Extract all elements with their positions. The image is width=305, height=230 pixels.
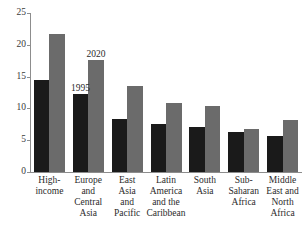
bar-2020-3 [127, 86, 143, 172]
bar-2020-2 [88, 60, 104, 172]
bar-2020-1 [49, 34, 65, 172]
x-axis-label-2: EuropeandCentralAsia [67, 175, 110, 219]
x-axis-label-7: MiddleEast andNorthAfrica [261, 175, 304, 219]
y-axis-tick-25: 25 [0, 8, 26, 18]
y-axis-tick-10: 10 [0, 103, 26, 113]
x-axis-label-4: LatinAmericaand theCaribbean [145, 175, 188, 219]
clipped-caption-text: · · · [0, 0, 305, 4]
series-annotation-1995: 1995 [69, 83, 93, 93]
x-axis-label-5: SouthAsia [183, 175, 226, 197]
bar-2020-7 [283, 120, 299, 172]
bar-2020-4 [166, 103, 182, 172]
bar-1995-6 [228, 132, 244, 172]
plot-area: 19952020 [30, 13, 302, 172]
bar-1995-1 [34, 80, 50, 172]
bar-1995-2 [73, 94, 89, 172]
y-axis-tick-15: 15 [0, 72, 26, 82]
bar-1995-4 [151, 124, 167, 172]
y-axis-tick-mark [27, 172, 30, 173]
y-axis-tick-20: 20 [0, 40, 26, 50]
bar-1995-3 [112, 119, 128, 172]
series-annotation-2020: 2020 [84, 49, 108, 59]
x-axis-label-3: EastAsiaandPacific [106, 175, 149, 219]
x-axis-label-6: Sub-SaharanAfrica [222, 175, 265, 208]
bar-1995-5 [189, 127, 205, 172]
y-axis-tick-5: 5 [0, 135, 26, 145]
bar-1995-7 [267, 136, 283, 172]
x-axis-label-1: High-income [28, 175, 71, 197]
bar-2020-5 [205, 106, 221, 172]
x-axis-line [30, 172, 302, 173]
x-axis-category-labels: High-incomeEuropeandCentralAsiaEastAsiaa… [30, 175, 302, 230]
y-axis-tick-0: 0 [0, 167, 26, 177]
bar-2020-6 [244, 129, 260, 172]
bar-chart: · · · 0510152025 19952020 High-incomeEur… [0, 0, 305, 230]
